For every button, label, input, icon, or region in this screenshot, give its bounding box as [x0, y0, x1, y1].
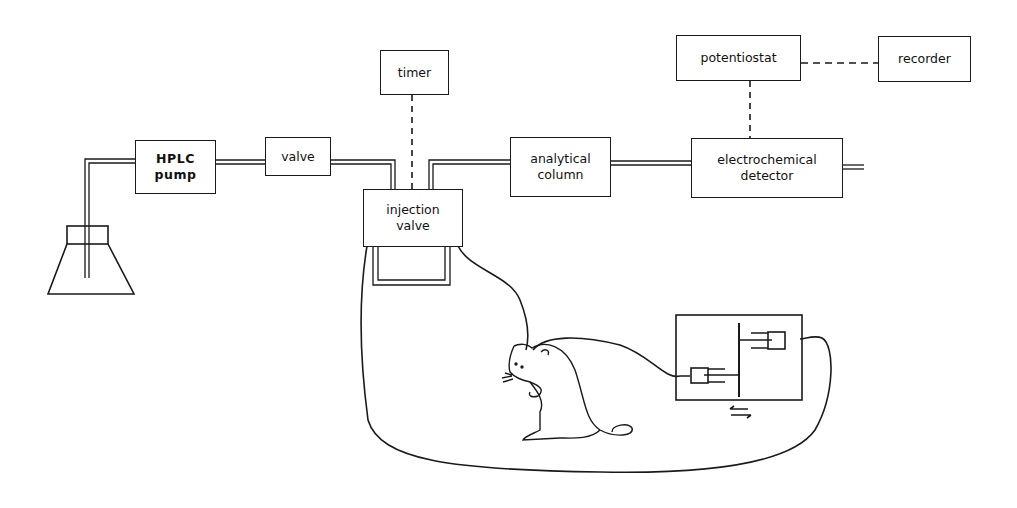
hplc-pump-box: HPLC pump	[135, 140, 216, 194]
rat	[502, 344, 632, 440]
sample-loop	[373, 245, 450, 285]
probe-line-inlet	[458, 246, 528, 350]
injection-valve-box: injection valve	[363, 189, 463, 247]
solvent-reservoir-flask	[48, 226, 134, 294]
valve-box: valve	[265, 137, 331, 176]
timer-box: timer	[380, 50, 449, 95]
hplc-pump-label: HPLC pump	[155, 151, 197, 183]
valve-label: valve	[281, 149, 315, 165]
potentiostat-label: potentiostat	[700, 50, 776, 66]
electrochemical-detector-label: electrochemical detector	[717, 152, 816, 184]
timer-label: timer	[398, 65, 431, 81]
potentiostat-box: potentiostat	[676, 35, 801, 81]
syringe-pump	[676, 315, 802, 418]
analytical-column-box: analytical column	[510, 137, 611, 197]
tube-reservoir-to-pump	[85, 159, 136, 278]
probe-line-to-syringe	[533, 338, 690, 376]
tube-injection-to-column	[429, 160, 512, 190]
recorder-label: recorder	[898, 51, 951, 67]
diagram-canvas	[0, 0, 1017, 508]
tube-pump-to-valve	[215, 160, 266, 164]
tube-column-to-detector	[610, 161, 692, 165]
injection-valve-label: injection valve	[386, 202, 439, 234]
electrochemical-detector-box: electrochemical detector	[691, 138, 843, 198]
tube-valve-to-injection	[330, 160, 395, 190]
recorder-box: recorder	[878, 36, 971, 82]
bidirectional-arrows	[730, 406, 751, 418]
tube-detector-outlet	[842, 165, 864, 169]
analytical-column-label: analytical column	[530, 151, 591, 183]
